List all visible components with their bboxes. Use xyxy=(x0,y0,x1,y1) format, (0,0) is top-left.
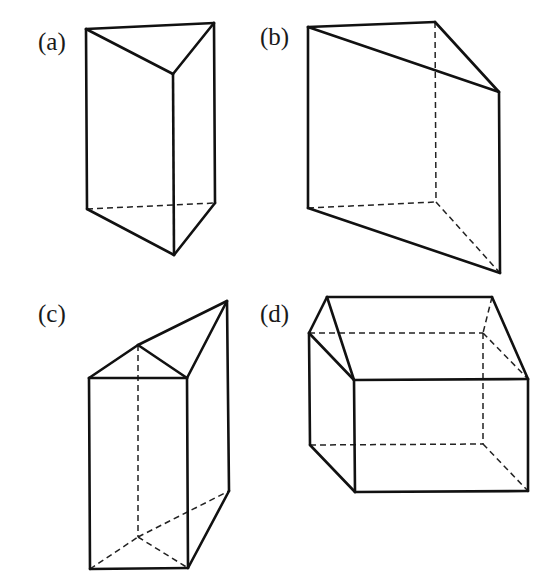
visible-edge xyxy=(214,23,215,203)
hidden-edge xyxy=(138,537,188,568)
hidden-edge xyxy=(483,444,528,491)
figure-a-triangular-prism: (a) xyxy=(38,23,215,255)
visible-edge xyxy=(89,378,90,569)
visible-edge xyxy=(86,29,87,209)
figure-b-triangular-prism: (b) xyxy=(260,22,500,273)
figure-c-composite-prism: (c) xyxy=(38,300,229,569)
visible-edge xyxy=(89,345,138,378)
visible-edge xyxy=(187,378,188,568)
visible-edge xyxy=(86,23,214,29)
visible-edge xyxy=(188,491,229,568)
visible-edge xyxy=(174,203,215,255)
prism-diagram: (a) (b) (c) (d) xyxy=(0,0,550,582)
visible-edge xyxy=(90,568,188,569)
hidden-edge xyxy=(90,537,138,569)
visible-edge xyxy=(173,74,174,255)
visible-edge xyxy=(173,23,214,74)
visible-edge xyxy=(354,380,355,492)
hidden-edge xyxy=(308,202,436,208)
visible-edge xyxy=(310,445,355,492)
visible-edge xyxy=(86,29,173,74)
hidden-edge xyxy=(435,22,436,202)
visible-edge xyxy=(499,92,500,273)
figure-label-c: (c) xyxy=(38,300,66,328)
figure-label-d: (d) xyxy=(260,300,289,328)
visible-edge xyxy=(227,301,229,491)
visible-edge xyxy=(138,345,187,378)
visible-edge xyxy=(187,301,227,378)
figure-label-b: (b) xyxy=(260,23,289,51)
visible-edge xyxy=(309,333,310,445)
figure-label-a: (a) xyxy=(38,28,66,56)
visible-edge xyxy=(308,22,435,27)
visible-edge xyxy=(492,297,528,379)
hidden-edge xyxy=(310,444,483,445)
visible-edge xyxy=(354,379,528,380)
visible-edge xyxy=(355,491,528,492)
figure-d-lying-prism: (d) xyxy=(260,297,528,492)
visible-edge xyxy=(87,209,174,255)
visible-edge xyxy=(309,297,327,333)
hidden-edge xyxy=(87,203,215,209)
visible-edge xyxy=(138,301,227,345)
hidden-edge xyxy=(483,333,528,379)
hidden-edge xyxy=(483,297,492,333)
